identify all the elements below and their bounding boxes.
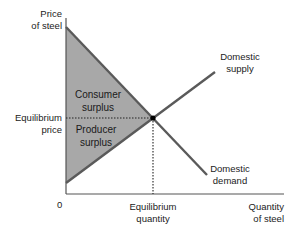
- supply-demand-diagram: Price of steel Equilibrium price 0 Equil…: [0, 0, 302, 239]
- producer-surplus-label-line2: surplus: [64, 136, 128, 149]
- origin-label-text: 0: [57, 199, 62, 211]
- equilibrium-quantity-label: Equilibrium quantity: [123, 201, 183, 225]
- supply-curve-label-line2: supply: [210, 63, 270, 75]
- producer-surplus-label-line1: Producer: [64, 123, 128, 136]
- equilibrium-quantity-label-line2: quantity: [123, 213, 183, 225]
- demand-curve-label-line2: demand: [200, 175, 260, 187]
- consumer-surplus-label-line1: Consumer: [66, 88, 130, 101]
- y-axis-label: Price of steel: [14, 8, 62, 32]
- equilibrium-price-label-line2: price: [2, 124, 62, 136]
- y-axis-label-line1: Price: [14, 8, 62, 20]
- y-axis-label-line2: of steel: [14, 20, 62, 32]
- producer-surplus-label: Producer surplus: [64, 123, 128, 149]
- equilibrium-price-label: Equilibrium price: [2, 112, 62, 136]
- equilibrium-quantity-label-line1: Equilibrium: [123, 201, 183, 213]
- x-axis-label-line1: Quantity: [236, 201, 284, 213]
- demand-curve-label: Domestic demand: [200, 163, 260, 187]
- demand-curve-label-line1: Domestic: [200, 163, 260, 175]
- origin-label: 0: [57, 199, 62, 211]
- x-axis-label-line2: of steel: [236, 213, 284, 225]
- equilibrium-point: [150, 115, 155, 120]
- supply-curve-label-line1: Domestic: [210, 51, 270, 63]
- supply-curve-label: Domestic supply: [210, 51, 270, 75]
- x-axis-label: Quantity of steel: [236, 201, 284, 225]
- equilibrium-price-label-line1: Equilibrium: [2, 112, 62, 124]
- consumer-surplus-label: Consumer surplus: [66, 88, 130, 114]
- consumer-surplus-label-line2: surplus: [66, 101, 130, 114]
